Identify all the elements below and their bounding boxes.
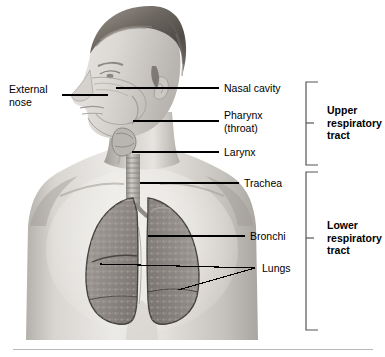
callout-overlay (0, 0, 385, 357)
label-larynx: Larynx (224, 146, 256, 159)
label-pharynx: Pharynx (throat) (224, 109, 263, 134)
label-nasal-cavity: Nasal cavity (224, 82, 281, 95)
bracket-label-upper: Upper respiratory tract (327, 104, 382, 142)
bracket-label-lower: Lower respiratory tract (327, 219, 382, 257)
bracket-upper (306, 82, 318, 165)
respiratory-anatomy-figure: External nose Nasal cavity Pharynx (thro… (0, 0, 385, 357)
label-lungs: Lungs (262, 262, 291, 275)
leader-lungs-left (100, 264, 255, 268)
leader-lungs-right (178, 268, 255, 290)
label-external-nose: External nose (9, 83, 48, 108)
bracket-lower (306, 172, 318, 330)
label-bronchi: Bronchi (250, 230, 286, 243)
footer-rule (13, 349, 373, 350)
label-trachea: Trachea (244, 177, 282, 190)
